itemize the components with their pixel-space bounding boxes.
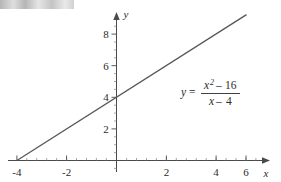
- x-tick-label-4: 4: [213, 166, 219, 178]
- equation-denominator-variable: x: [208, 95, 215, 107]
- equation-numerator-number: 16: [225, 79, 237, 91]
- equation-numerator-minus: –: [215, 79, 222, 91]
- equation-annotation: y = x 2 – 16 x – 4: [180, 78, 240, 108]
- function-curve: [17, 15, 247, 161]
- y-tick-label-2: 2: [103, 123, 109, 135]
- y-axis-label: y: [123, 8, 129, 20]
- equation-equals-sign: =: [189, 86, 196, 98]
- x-tick-label-2: 2: [164, 166, 170, 178]
- x-axis-arrow-icon: [262, 157, 270, 163]
- equation-denominator-number: 4: [226, 95, 232, 107]
- y-tick-label-4: 4: [103, 91, 109, 103]
- coordinate-plane: -4 -2 2 4 6 2 4 6 8 x y y = x 2 – 16 x –…: [0, 0, 281, 182]
- y-tick-label-8: 8: [103, 28, 109, 40]
- graph-figure: -4 -2 2 4 6 2 4 6 8 x y y = x 2 – 16 x –…: [0, 0, 281, 182]
- equation-numerator-exponent: 2: [210, 78, 214, 87]
- y-axis-arrow-icon: [113, 12, 119, 20]
- x-tick-label--4: -4: [12, 166, 22, 178]
- equation-lhs: y: [180, 86, 187, 99]
- x-axis-label: x: [263, 167, 269, 179]
- equation-denominator-minus: –: [215, 95, 222, 107]
- x-axis-major-ticks: [17, 156, 246, 161]
- y-tick-label-6: 6: [103, 60, 109, 72]
- equation-numerator-variable: x: [203, 79, 210, 91]
- x-tick-label--2: -2: [62, 166, 71, 178]
- x-tick-label-6: 6: [243, 166, 249, 178]
